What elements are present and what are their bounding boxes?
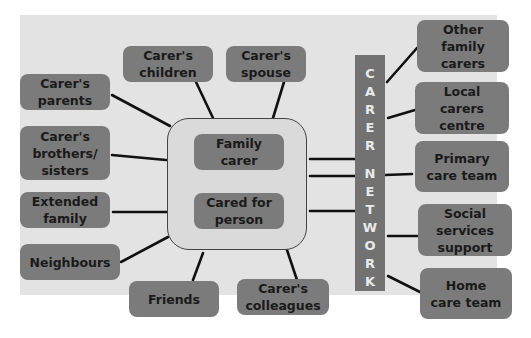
- node-carers-siblings: Carer's brothers/ sisters: [20, 126, 110, 180]
- network-letter: C: [365, 65, 375, 83]
- carer-network-bar: C A R E R N E T W O R K: [355, 55, 385, 291]
- network-letter: R: [365, 101, 375, 119]
- node-carers-children: Carer's children: [123, 46, 213, 82]
- network-letter: R: [365, 137, 375, 155]
- network-letter: K: [365, 273, 375, 291]
- node-friends: Friends: [129, 281, 219, 317]
- node-carers-spouse: Carer's spouse: [226, 46, 306, 82]
- node-carers-colleagues: Carer's colleagues: [237, 279, 329, 315]
- network-letter: O: [364, 237, 375, 255]
- node-home-care-team: Home care team: [420, 268, 512, 319]
- node-cared-for-person: Cared for person: [194, 193, 284, 229]
- node-local-carers-centre: Local carers centre: [415, 82, 509, 134]
- node-carers-parents: Carer's parents: [20, 74, 110, 110]
- network-letter: E: [366, 119, 375, 137]
- network-letter: N: [365, 165, 376, 183]
- node-primary-care-team: Primary care team: [415, 141, 509, 192]
- network-letter: A: [365, 83, 375, 101]
- node-other-family-carers: Other family carers: [417, 20, 509, 72]
- network-letter: T: [366, 201, 375, 219]
- network-letter: W: [363, 219, 377, 237]
- network-letter: R: [365, 255, 375, 273]
- network-letter: E: [366, 183, 375, 201]
- node-neighbours: Neighbours: [20, 244, 120, 280]
- node-family-carer: Family carer: [194, 134, 284, 170]
- node-social-services-support: Social services support: [418, 204, 512, 256]
- node-extended-family: Extended family: [20, 192, 110, 228]
